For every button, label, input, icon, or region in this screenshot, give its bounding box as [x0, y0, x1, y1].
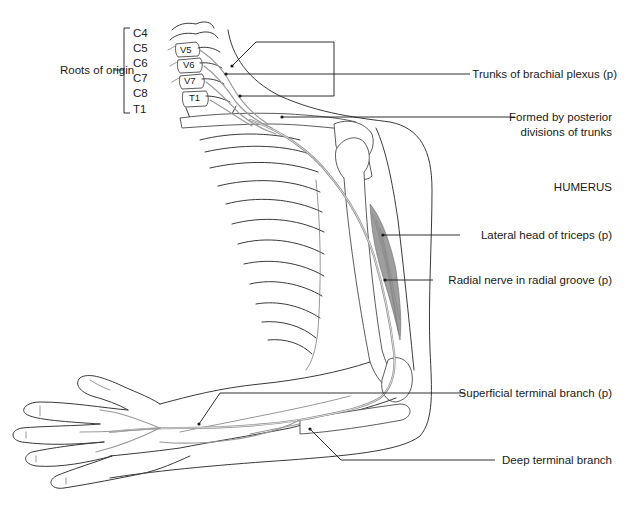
forearm	[110, 362, 410, 456]
label-posterior-line2: divisions of trunks	[521, 126, 613, 138]
label-lateral-head-triceps: Lateral head of triceps (p)	[481, 229, 612, 241]
root-label: C8	[133, 87, 148, 99]
label-deep-branch: Deep terminal branch	[502, 454, 612, 466]
label-trunks: Trunks of brachial plexus (p)	[472, 68, 617, 80]
root-label: C7	[133, 72, 148, 84]
radial-nerve-diagram: V5 V6 V7 T1 Roots of origin C4 C5 C6 C7 …	[0, 0, 629, 507]
label-superficial-branch: Superficial terminal branch (p)	[459, 387, 613, 399]
label-posterior-line1: Formed by posterior	[509, 111, 612, 123]
rib-cage	[200, 134, 324, 370]
label-radial-groove: Radial nerve in radial groove (p)	[448, 274, 612, 286]
root-label: C4	[133, 27, 148, 39]
cervical-spine	[168, 22, 236, 118]
labels: Trunks of brachial plexus (p) Formed by …	[448, 68, 617, 466]
root-label: C6	[133, 57, 148, 69]
root-label: T1	[133, 103, 146, 115]
radial-nerve	[80, 50, 394, 452]
vertebra-label: V5	[180, 44, 192, 55]
vertebra-label: V6	[183, 59, 195, 70]
roots-of-origin: Roots of origin C4 C5 C6 C7 C8 T1	[60, 27, 148, 115]
humerus	[335, 138, 412, 402]
vertebra-label: V7	[184, 75, 196, 86]
vertebra-label: T1	[189, 92, 200, 103]
root-label: C5	[133, 42, 148, 54]
label-humerus: HUMERUS	[554, 181, 612, 193]
trunks-bracket	[232, 42, 334, 96]
